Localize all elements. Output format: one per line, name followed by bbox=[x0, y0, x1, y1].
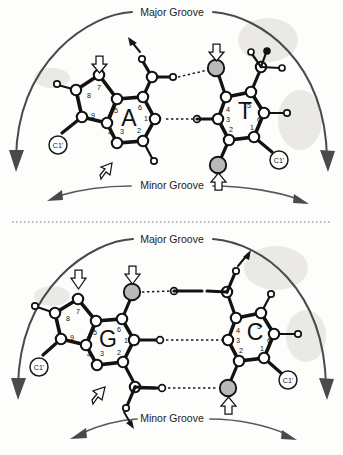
thymine-atom-c5 bbox=[246, 87, 256, 97]
gc-panel-graphic: Major Groove Minor Groove bbox=[0, 228, 343, 455]
cytosine-n4-h-bond-a bbox=[207, 291, 227, 292]
panel-guanine-cytosine: Major Groove Minor Groove bbox=[0, 228, 343, 455]
thymine-num-4: 4 bbox=[226, 105, 230, 114]
adenine-sugar-label: C1' bbox=[53, 142, 63, 149]
arrow-minor-thymine-o2 bbox=[211, 173, 226, 190]
gc-hydrogen-bonds bbox=[140, 288, 222, 392]
thymine-sugar-label: C1' bbox=[274, 157, 284, 164]
cytosine-atom-o2 bbox=[220, 380, 236, 396]
at-panel-graphic: Major Groove Minor Groove bbox=[0, 0, 343, 227]
at-amino-direction-arrow bbox=[128, 37, 140, 52]
minor-groove-arrowhead-right bbox=[281, 430, 297, 440]
guanine-atom-h-n1 bbox=[157, 337, 164, 344]
thymine-atom-n1 bbox=[249, 132, 259, 142]
thymine-atom-c4 bbox=[221, 92, 231, 102]
guanine-atom-c4 bbox=[81, 340, 91, 350]
paper-smudge bbox=[278, 90, 322, 150]
thymine-num-2: 2 bbox=[229, 125, 233, 134]
guanine-atom-c8 bbox=[50, 308, 60, 318]
cytosine-atom-n1 bbox=[259, 353, 269, 363]
thymine-structure: C1' 4 5 3 6 2 1 T bbox=[208, 48, 290, 173]
adenine-atom-c2 bbox=[138, 136, 148, 146]
adenine-atom-h-n6b bbox=[170, 74, 176, 80]
major-groove-arrowhead-left bbox=[9, 150, 24, 172]
cytosine-num-2: 2 bbox=[239, 346, 243, 355]
adenine-atom-n3 bbox=[112, 138, 122, 148]
major-groove-arrowhead-right bbox=[320, 150, 335, 172]
cytosine-atom-h-c5 bbox=[268, 291, 274, 297]
cytosine-num-3: 3 bbox=[236, 336, 240, 345]
guanine-atom-n7 bbox=[73, 294, 83, 304]
arrow-major-thymine-o4 bbox=[209, 44, 224, 61]
adenine-num-6: 6 bbox=[138, 103, 142, 112]
paper-smudge bbox=[244, 246, 308, 290]
minor-groove-label: Minor Groove bbox=[140, 412, 204, 424]
cytosine-atom-h-n4b bbox=[233, 268, 239, 274]
guanine-atom-o6 bbox=[124, 284, 140, 300]
arrow-major-guanine-o6 bbox=[125, 266, 140, 284]
thymine-atom-h-me-b bbox=[264, 48, 270, 54]
minor-groove-arrowhead-left bbox=[70, 428, 87, 439]
guanine-atom-h-c8 bbox=[32, 303, 38, 309]
guanine-num-9: 9 bbox=[70, 333, 74, 342]
adenine-atom-h-n6a bbox=[139, 56, 145, 62]
guanine-amino-arrow-head bbox=[126, 420, 134, 429]
arrow-major-adenine-n7 bbox=[92, 56, 107, 73]
guanine-atom-c6 bbox=[117, 314, 127, 324]
adenine-num-5: 5 bbox=[114, 106, 118, 115]
major-groove-label: Major Groove bbox=[140, 6, 204, 18]
guanine-num-6: 6 bbox=[117, 325, 121, 334]
arrow-minor-guanine-n3 bbox=[92, 387, 105, 404]
major-groove-arrowhead-left bbox=[11, 378, 26, 400]
thymine-atom-h-me-a bbox=[248, 49, 254, 55]
thymine-atom-o2 bbox=[210, 157, 226, 173]
major-groove-arrowhead-right bbox=[319, 378, 334, 400]
adenine-atom-c4 bbox=[102, 118, 112, 128]
thymine-num-1: 1 bbox=[250, 123, 254, 132]
panel-adenine-thymine: Major Groove Minor Groove bbox=[0, 0, 343, 227]
hbond-n6-o4 bbox=[178, 70, 208, 77]
thymine-atom-n3 bbox=[213, 114, 223, 124]
guanine-num-8: 8 bbox=[66, 314, 70, 323]
guanine-num-2: 2 bbox=[117, 348, 121, 357]
cytosine-atom-c5 bbox=[256, 308, 266, 318]
guanine-atom-n9 bbox=[56, 334, 66, 344]
adenine-base-letter: A bbox=[121, 105, 137, 131]
thymine-atom-h-c6 bbox=[284, 110, 290, 116]
thymine-num-6: 6 bbox=[257, 115, 261, 124]
dna-base-pair-figure: Major Groove Minor Groove bbox=[0, 0, 343, 455]
adenine-structure: C1' 7 8 9 4 5 6 1 2 3 A bbox=[49, 56, 176, 164]
thymine-methyl-h-c bbox=[261, 67, 280, 68]
adenine-num-9: 9 bbox=[91, 111, 95, 120]
thymine-atom-c2 bbox=[224, 135, 234, 145]
guanine-atom-n1 bbox=[129, 335, 139, 345]
hbond-o6-n4 bbox=[142, 291, 172, 292]
cytosine-sugar-label: C1' bbox=[283, 377, 293, 384]
guanine-num-7: 7 bbox=[76, 307, 80, 316]
guanine-num-5: 5 bbox=[93, 328, 97, 337]
adenine-num-1: 1 bbox=[144, 114, 148, 123]
cytosine-num-6: 6 bbox=[267, 336, 271, 345]
minor-groove-arc-left bbox=[58, 186, 131, 196]
minor-groove-arc-right bbox=[213, 186, 298, 199]
thymine-atom-h-me-c bbox=[279, 65, 285, 71]
thymine-atom-o4 bbox=[208, 60, 224, 76]
major-groove-label: Major Groove bbox=[140, 233, 204, 245]
guanine-sugar-label: C1' bbox=[34, 364, 44, 371]
arrow-major-guanine-n7 bbox=[71, 270, 86, 289]
adenine-atom-n9 bbox=[77, 112, 87, 122]
guanine-base-letter: G bbox=[99, 326, 117, 352]
guanine-atom-c5 bbox=[91, 316, 101, 326]
adenine-num-2: 2 bbox=[137, 126, 141, 135]
guanine-atom-n3 bbox=[92, 360, 102, 370]
adenine-atom-h-c2 bbox=[151, 158, 157, 164]
adenine-atom-c8 bbox=[71, 85, 81, 95]
amino-arrow-head bbox=[128, 37, 137, 46]
guanine-num-4: 4 bbox=[87, 350, 91, 359]
thymine-base-letter: T bbox=[238, 98, 252, 124]
guanine-atom-c2 bbox=[118, 357, 128, 367]
paper-smudge bbox=[34, 68, 70, 88]
cytosine-base-letter: C bbox=[247, 319, 264, 345]
cytosine-atom-c2 bbox=[234, 356, 244, 366]
arrow-minor-adenine-n3 bbox=[100, 163, 112, 179]
